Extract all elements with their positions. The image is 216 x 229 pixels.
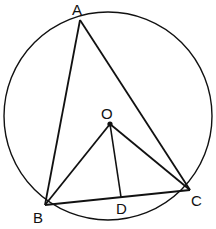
label-c: C (191, 192, 202, 209)
label-a: A (72, 1, 82, 18)
geometry-diagram: A O B C D (0, 0, 216, 229)
segment-ob (45, 124, 110, 205)
segment-od (110, 124, 121, 197)
label-b: B (33, 209, 43, 226)
center-point-o (107, 121, 112, 126)
segment-ab (45, 20, 80, 205)
label-d: D (116, 200, 127, 217)
segment-oc (110, 124, 190, 190)
segment-ac (80, 20, 190, 190)
label-o: O (101, 105, 113, 122)
